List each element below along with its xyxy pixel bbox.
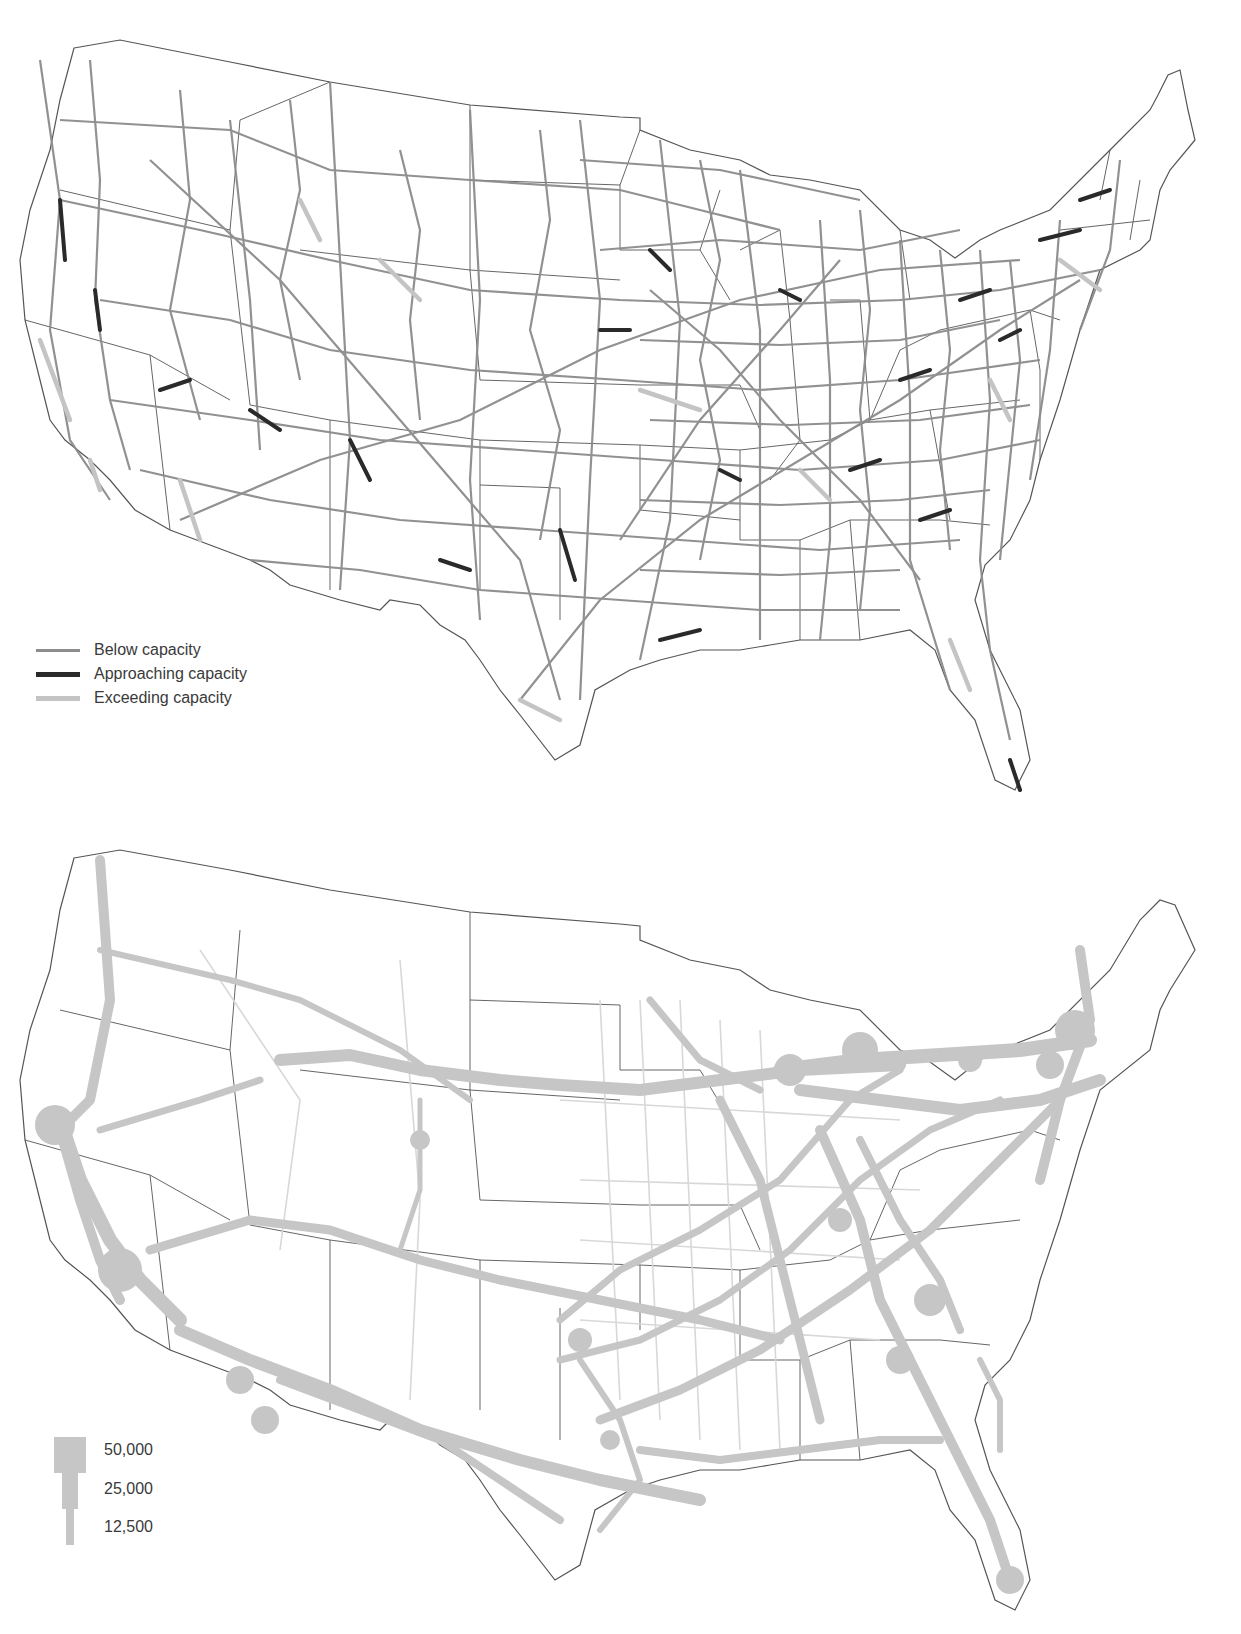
legend-label: Below capacity [94,641,201,659]
legend-label: Approaching capacity [94,665,247,683]
freight-flows [60,860,1100,1580]
flow-nodes [35,1010,1095,1594]
legend-label: Exceeding capacity [94,689,232,707]
flow-width-scale-icon [54,1437,94,1567]
exceeding-capacity-swatch [36,696,80,701]
legend-item-approaching-capacity: Approaching capacity [36,662,247,686]
capacity-legend: Below capacity Approaching capacity Exce… [36,638,247,710]
legend-label-50000: 50,000 [104,1441,153,1459]
legend-item-below-capacity: Below capacity [36,638,247,662]
us-outline [20,850,1195,1610]
legend-label-12500: 12,500 [104,1518,153,1536]
legend-item-exceeding-capacity: Exceeding capacity [36,686,247,710]
legend-label-25000: 25,000 [104,1480,153,1498]
state-borders [25,912,1060,1460]
freight-flow-map-canvas [0,800,1241,1634]
freight-flow-map [0,800,1241,1634]
below-capacity-swatch [36,649,80,652]
approaching-capacity-swatch [36,672,80,677]
